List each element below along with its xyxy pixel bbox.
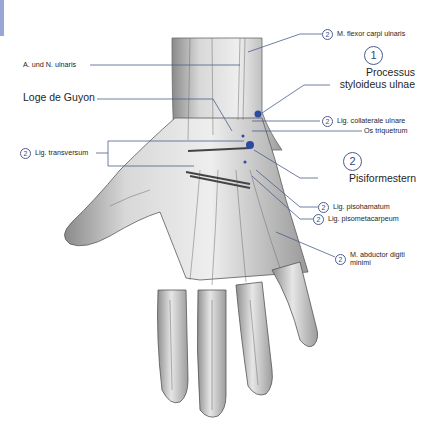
middle-finger	[197, 290, 226, 417]
ring-finger	[236, 282, 272, 395]
label-processus-styloideus-ulnae: Processus styloideus ulnae	[340, 67, 415, 90]
number-badge-icon: 1	[364, 46, 383, 65]
number-badge-icon: 2	[313, 214, 324, 225]
label-text: A. und N. ulnaris	[23, 60, 76, 69]
label-os-triquetrum: Os triquetrum	[364, 127, 408, 135]
label-text-line2: styloideus ulnae	[340, 79, 415, 91]
label-text-line2: minimi	[350, 259, 405, 267]
label-text: Lig. pisometacarpeum	[328, 214, 399, 223]
label-m-abductor-digiti-minimi: 2 M. abductor digiti minimi	[335, 251, 405, 267]
label-text: Lig. transversum	[35, 148, 88, 157]
little-finger	[272, 262, 318, 347]
label-a-n-ulnaris: A. und N. ulnaris	[23, 61, 76, 69]
label-text: Lig. collaterale ulnare	[337, 116, 405, 125]
label-badge-processus: 1	[364, 46, 383, 65]
label-lig-transversum: 2Lig. transversum	[20, 148, 88, 159]
label-text: Pisiformestern	[349, 172, 416, 184]
label-text: M. flexor carpi ulnaris	[337, 29, 405, 38]
number-badge-icon: 2	[20, 148, 31, 159]
label-text: Loge de Guyon	[23, 91, 95, 103]
index-finger	[158, 290, 189, 403]
number-badge-icon: 2	[318, 202, 329, 213]
label-lig-pisohamatum: 2Lig. pisohamatum	[318, 202, 390, 213]
label-lig-pisometacarpeum: 2Lig. pisometacarpeum	[313, 214, 399, 225]
number-badge-icon: 2	[343, 152, 362, 171]
label-text: Os triquetrum	[364, 126, 408, 135]
number-badge-icon: 2	[322, 29, 333, 40]
label-text: Lig. pisohamatum	[333, 202, 390, 211]
label-pisiformestern: Pisiformestern	[349, 173, 416, 185]
number-badge-icon: 2	[335, 254, 346, 265]
label-text-line1: Processus	[340, 67, 415, 79]
label-m-flexor-carpi-ulnaris: 2M. flexor carpi ulnaris	[322, 29, 405, 40]
number-badge-icon: 2	[322, 116, 333, 127]
label-loge-de-guyon: Loge de Guyon	[23, 92, 95, 104]
label-badge-pisiformestern: 2	[343, 152, 362, 171]
